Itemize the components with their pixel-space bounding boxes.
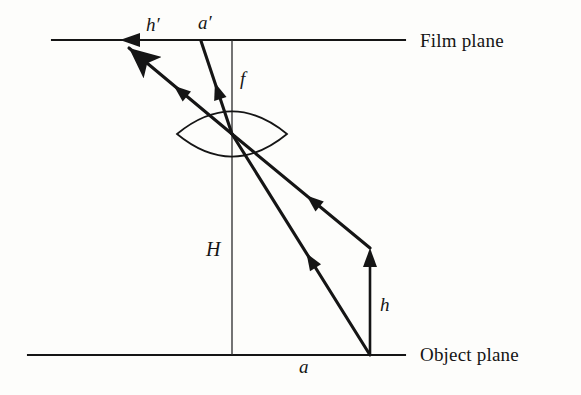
chief-ray-group <box>129 48 370 355</box>
object-height-arrow-group <box>363 248 377 355</box>
label-object-height: h <box>380 294 390 316</box>
object-height-arrowhead <box>363 248 377 267</box>
label-camera-height: H <box>206 238 220 261</box>
diagram-canvas <box>0 0 581 395</box>
object-plane-label: Object plane <box>420 344 519 366</box>
film-plane-label: Film plane <box>420 30 504 52</box>
tip-ray-outgoing-arrowhead <box>214 83 226 101</box>
image-height-arrowhead <box>120 33 140 47</box>
chief-ray-midpoint-arrowhead <box>307 253 322 271</box>
label-focal-length: f <box>240 68 245 90</box>
label-image-height: h′ <box>146 14 160 36</box>
label-object-distance: a <box>299 356 309 378</box>
tip-ray-incoming-segment <box>232 134 370 248</box>
label-image-distance: a′ <box>198 12 212 34</box>
optics-diagram: Film plane Object plane h′ a′ f H h a <box>0 0 581 395</box>
chief-ray-incoming-segment <box>232 134 370 355</box>
